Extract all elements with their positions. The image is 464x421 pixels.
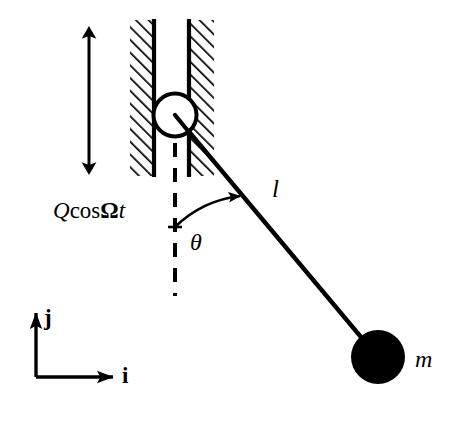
- forcing-time-symbol: t: [119, 198, 125, 223]
- axis-j-label: j: [44, 306, 52, 329]
- rod-length-label: l: [272, 176, 279, 201]
- forcing-amplitude-symbol: Q: [53, 198, 70, 223]
- right-wall-hatching: [189, 20, 214, 176]
- axis-i-label: i: [122, 364, 128, 387]
- pendulum-figure: QcosΩt θ l m i j: [0, 0, 464, 421]
- forcing-label: QcosΩt: [53, 199, 125, 222]
- left-wall: [130, 19, 155, 177]
- forcing-frequency-symbol: Ω: [100, 198, 118, 223]
- left-wall-hatching: [130, 20, 155, 176]
- forcing-function-name: cos: [70, 198, 101, 223]
- pendulum-rod: [175, 115, 371, 349]
- mass-label: m: [415, 347, 432, 371]
- pendulum-bob-mass-icon: [351, 330, 405, 384]
- angle-arc-icon: [175, 196, 240, 227]
- angle-label: θ: [190, 230, 202, 254]
- right-wall: [189, 19, 214, 177]
